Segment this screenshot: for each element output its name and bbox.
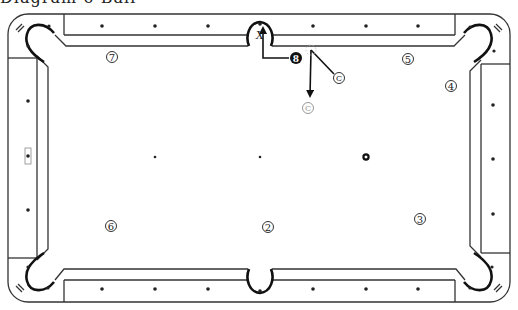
svg-text:4: 4 <box>448 81 454 92</box>
diamond-marker <box>153 287 157 291</box>
diamond-marker <box>100 24 104 28</box>
diamond-marker <box>311 287 315 291</box>
cue-ball: C <box>334 73 345 84</box>
pocket-bottom-left <box>16 253 54 292</box>
svg-text:C: C <box>336 74 342 83</box>
diamond-marker <box>364 287 368 291</box>
diamond-marker <box>364 24 368 28</box>
diamond-marker <box>26 208 30 212</box>
pocket-bottom-right <box>464 253 502 292</box>
diamond-marker <box>416 24 420 28</box>
pocket-top-right <box>464 24 502 62</box>
pocket-top-middle: X <box>247 22 272 46</box>
table-outer-frame <box>8 14 510 302</box>
eight-ball: 8 <box>290 52 302 64</box>
ball-5: 5 <box>403 54 414 66</box>
ball-2: 2 <box>263 222 274 234</box>
pocket-bottom-middle <box>247 269 272 293</box>
right-rail <box>470 60 510 257</box>
ball-7: 7 <box>107 52 118 64</box>
ball-4: 4 <box>446 81 457 93</box>
ball-3: 3 <box>415 214 426 226</box>
balls: 7546238CC <box>106 52 457 234</box>
head-spot <box>363 154 368 159</box>
cue-ball-ghost: C <box>303 103 314 114</box>
svg-text:3: 3 <box>417 214 423 225</box>
svg-text:C: C <box>305 104 311 113</box>
left-rail <box>8 56 48 260</box>
foot-spot <box>154 156 157 159</box>
object-ball-path <box>263 28 289 58</box>
pocket-top-left <box>16 24 54 62</box>
diamond-marker <box>491 157 495 161</box>
svg-text:6: 6 <box>108 221 114 232</box>
svg-text:5: 5 <box>405 54 411 65</box>
pool-table: X 7546238CC <box>0 0 518 310</box>
diamond-marker <box>206 287 210 291</box>
ball-6: 6 <box>106 221 117 233</box>
diamond-marker <box>153 24 157 28</box>
diamond-marker <box>491 103 495 107</box>
svg-text:2: 2 <box>265 222 271 233</box>
diamond-marker <box>311 24 315 28</box>
diamond-marker <box>206 24 210 28</box>
diamond-marker <box>416 287 420 291</box>
bottom-rail <box>55 269 465 302</box>
svg-text:8: 8 <box>293 54 299 64</box>
cue-path-after-contact <box>310 50 311 96</box>
diamond-marker <box>491 212 495 216</box>
diamond-marker <box>100 287 104 291</box>
table-spots <box>154 154 369 159</box>
center-spot <box>259 156 262 159</box>
svg-text:7: 7 <box>109 52 115 63</box>
diamond-marker <box>26 154 30 158</box>
diamond-marker <box>26 99 30 103</box>
